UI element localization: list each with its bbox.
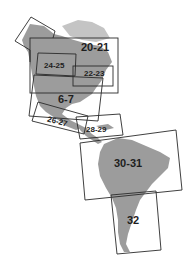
frame-28-29-label: 28-29: [86, 125, 107, 134]
frame-6-7-label: 6-7: [58, 93, 74, 105]
americas-index-map: 20-21 24-25 22-23 6-7 26-27 28-29 30-31: [0, 0, 196, 266]
frame-28-29[interactable]: 28-29: [76, 114, 123, 139]
landmass-layer: [22, 20, 170, 252]
frame-20-21-label: 20-21: [81, 41, 109, 53]
frame-22-23-label: 22-23: [84, 69, 105, 78]
frame-30-31-label: 30-31: [114, 157, 142, 169]
frame-24-25-label: 24-25: [44, 61, 65, 70]
frame-32-label: 32: [127, 214, 139, 226]
